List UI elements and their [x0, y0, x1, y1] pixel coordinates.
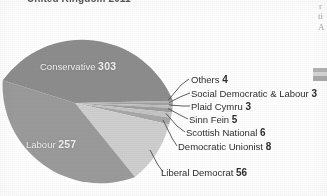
callout-democratic-unionist-value: 8: [266, 141, 272, 152]
callout-democratic-unionist: Democratic Unionist 8: [178, 142, 271, 152]
callout-social-democratic-labour-text: Social Democratic & Labour: [191, 88, 309, 99]
callout-scottish-national-value: 6: [260, 127, 266, 138]
callout-plaid-cymru-text: Plaid Cymru: [191, 101, 243, 112]
callout-scottish-national: Scottish National 6: [186, 128, 266, 138]
chart-figure: United Kingdom 2011: [0, 0, 327, 196]
callout-sinn-fein: Sinn Fein 5: [189, 115, 237, 125]
callout-liberal-democrat-text: Liberal Democrat: [161, 167, 233, 178]
slice-label-conservative: Conservative 303: [40, 60, 116, 72]
callout-others-value: 4: [222, 74, 228, 85]
slice-label-labour-text: Labour: [26, 139, 56, 150]
callout-liberal-democrat: Liberal Democrat 56: [161, 168, 247, 178]
callout-plaid-cymru-value: 3: [245, 101, 251, 112]
callout-scottish-national-text: Scottish National: [186, 127, 257, 138]
edge-text-fragment-1: r: [319, 1, 327, 11]
callout-sinn-fein-text: Sinn Fein: [189, 114, 229, 125]
callout-sinn-fein-value: 5: [232, 114, 238, 125]
edge-text-fragment-3: A: [318, 22, 327, 32]
slice-label-conservative-value: 303: [98, 60, 116, 72]
callout-social-democratic-labour-value: 3: [311, 88, 317, 99]
edge-text-fragment-2: ti: [318, 11, 327, 21]
callout-others: Others 4: [191, 75, 228, 85]
callout-social-democratic-labour: Social Democratic & Labour 3: [191, 89, 317, 99]
slice-label-labour: Labour 257: [26, 138, 76, 150]
callout-liberal-democrat-value: 56: [236, 167, 247, 178]
callout-democratic-unionist-text: Democratic Unionist: [178, 141, 263, 152]
callout-others-text: Others: [191, 74, 220, 85]
leader-social-democratic-labour: [169, 93, 190, 103]
slice-label-labour-value: 257: [58, 138, 76, 150]
chart-title: United Kingdom 2011: [27, 0, 131, 4]
clipped-legend-swatch: [313, 68, 327, 81]
callout-plaid-cymru: Plaid Cymru 3: [191, 102, 251, 112]
slice-label-conservative-text: Conservative: [40, 61, 95, 72]
